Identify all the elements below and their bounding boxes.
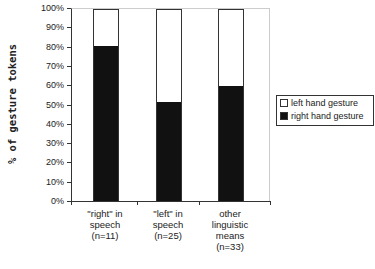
y-axis-title: % of gesture tokens [6,44,18,164]
y-tick-label: 40% [20,119,64,129]
stacked-bar [93,9,119,202]
x-tick-mark [137,201,138,205]
y-tick-label: 10% [20,177,64,187]
y-tick-label: 70% [20,61,64,71]
x-category-label: "left" inspeech(n=25) [138,208,198,241]
bar-segment-right-hand [219,86,243,201]
bar-segment-right-hand [94,46,118,201]
legend-label: right hand gesture [291,111,364,121]
x-axis [71,201,270,202]
bar-segment-right-hand [157,102,181,201]
x-category-label: "right" inspeech(n=11) [75,208,135,241]
legend-item-left-hand: left hand gesture [277,96,373,109]
x-tick-mark [71,201,72,205]
y-tick-label: 0% [20,196,64,206]
legend-swatch-black-icon [280,112,288,120]
legend: left hand gesture right hand gesture [276,95,374,126]
stacked-bar [218,9,244,202]
x-tick-mark [270,201,271,205]
legend-label: left hand gesture [291,98,358,108]
y-tick-label: 90% [20,22,64,32]
x-tick-mark [199,201,200,205]
legend-item-right-hand: right hand gesture [277,109,373,122]
legend-swatch-white-icon [280,99,288,107]
y-tick-label: 20% [20,157,64,167]
y-tick-label: 80% [20,42,64,52]
stacked-bar [156,9,182,202]
y-tick-label: 30% [20,138,64,148]
y-tick-label: 60% [20,80,64,90]
y-tick-label: 50% [20,100,64,110]
x-category-label: otherlinguisticmeans(n=33) [200,208,260,252]
y-tick-label: 100% [20,3,64,13]
plot-area [71,8,270,202]
